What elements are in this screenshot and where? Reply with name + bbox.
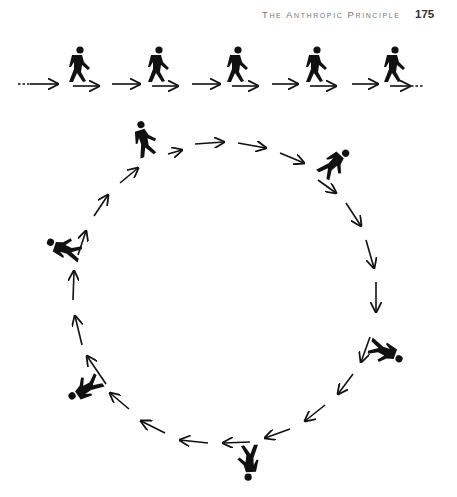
walking-person-icon [384, 46, 405, 82]
walking-person-icon [316, 143, 355, 184]
walking-person-icon [366, 337, 407, 369]
walking-person-icon [129, 118, 160, 158]
circle-loop [44, 118, 407, 481]
walking-person-icon [44, 232, 84, 263]
walking-person-icon [227, 46, 248, 82]
walking-person-icon [148, 46, 169, 82]
walking-person-icon [306, 46, 327, 82]
figure-illustration [0, 0, 457, 497]
walking-person-icon [237, 445, 259, 481]
walking-person-icon [63, 369, 104, 407]
top-row [18, 46, 423, 86]
walking-person-icon [69, 46, 90, 82]
